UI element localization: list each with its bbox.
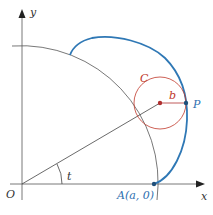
angle-label: t xyxy=(67,170,72,183)
y-axis-arrow-icon xyxy=(19,9,26,18)
radius-b-label: b xyxy=(169,89,176,102)
point-p-dot xyxy=(184,101,188,105)
center-dot xyxy=(158,101,162,105)
x-axis-arrow-icon xyxy=(196,181,205,188)
point-a-label: A(a, 0) xyxy=(116,189,154,202)
point-p-label: P xyxy=(192,98,201,111)
angle-arc xyxy=(57,164,62,184)
epitrochoid-diagram: y x O t A(a, 0) P C b xyxy=(0,0,213,215)
circle-c-label: C xyxy=(140,72,149,85)
origin-label: O xyxy=(6,188,15,201)
x-axis-label: x xyxy=(201,190,208,203)
y-axis-label: y xyxy=(29,6,37,19)
point-a-dot xyxy=(152,182,156,186)
traced-curve xyxy=(70,37,187,184)
center-line xyxy=(22,103,160,184)
